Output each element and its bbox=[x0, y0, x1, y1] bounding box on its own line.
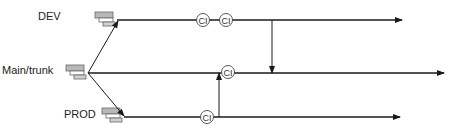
diagram-graphics: CI CI CI CI bbox=[0, 0, 449, 131]
svg-text:CI: CI bbox=[224, 68, 233, 78]
svg-text:CI: CI bbox=[222, 16, 231, 26]
ci-node-dev-2: CI bbox=[220, 14, 233, 27]
ci-node-main: CI bbox=[222, 66, 235, 79]
server-icon-main bbox=[66, 65, 86, 79]
ci-node-prod: CI bbox=[201, 111, 214, 124]
svg-text:CI: CI bbox=[203, 113, 212, 123]
server-icon-dev bbox=[95, 12, 115, 26]
ci-node-dev-1: CI bbox=[197, 14, 210, 27]
svg-text:CI: CI bbox=[199, 16, 208, 26]
branching-diagram: DEV Main/trunk PROD CI CI bbox=[0, 0, 449, 131]
